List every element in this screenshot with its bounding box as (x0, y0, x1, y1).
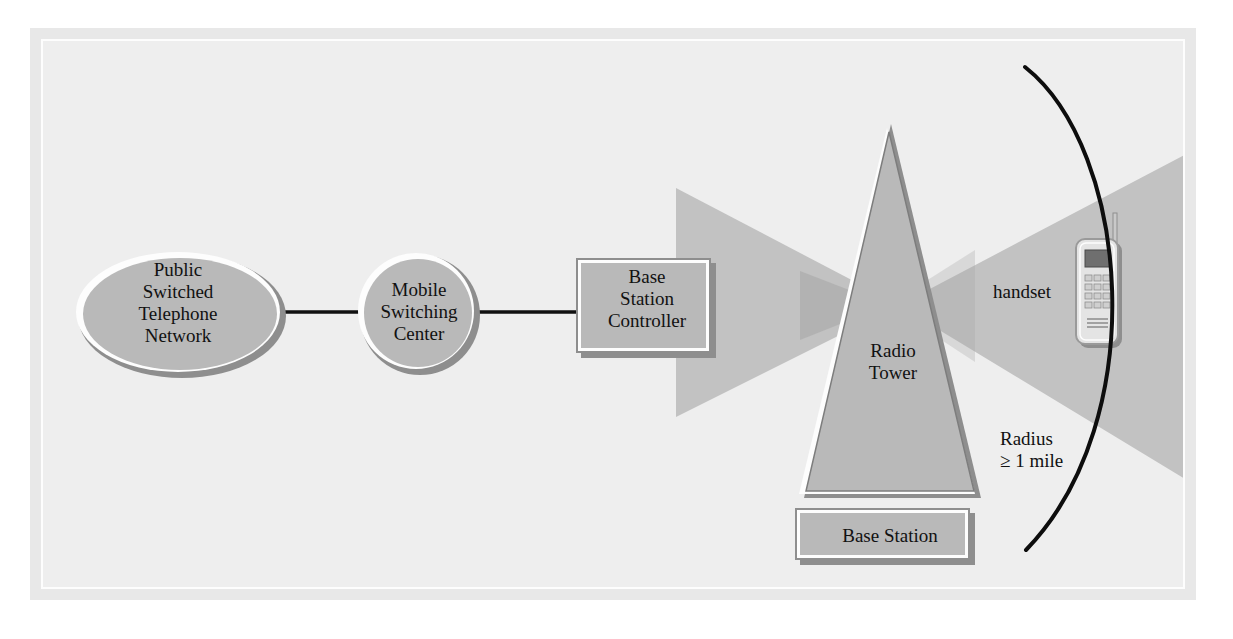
diagram-canvas (43, 41, 1183, 587)
diagram-figure: Public Switched Telephone Network Mobile… (0, 0, 1233, 639)
